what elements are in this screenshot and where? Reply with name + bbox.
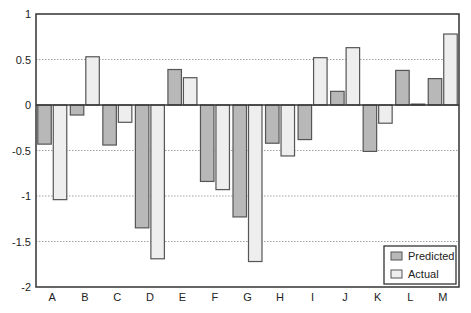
y-tick-label: -0.5 xyxy=(12,145,31,157)
bar-predicted-H xyxy=(266,105,280,143)
bar-predicted-J xyxy=(331,91,345,105)
x-tick-label: M xyxy=(438,291,447,303)
bar-actual-D xyxy=(151,105,165,259)
x-tick-label: A xyxy=(49,291,57,303)
bars xyxy=(38,34,457,262)
y-tick-label: -1 xyxy=(21,190,31,202)
y-tick-label: 0.5 xyxy=(16,54,31,66)
bar-actual-E xyxy=(183,78,197,105)
bar-actual-C xyxy=(118,105,132,122)
bar-predicted-D xyxy=(135,105,149,228)
x-tick-label: K xyxy=(374,291,382,303)
bar-actual-J xyxy=(346,48,360,105)
x-tick-label: G xyxy=(243,291,252,303)
x-tick-label: E xyxy=(179,291,186,303)
x-tick-label: B xyxy=(81,291,88,303)
x-tick-label: L xyxy=(407,291,413,303)
y-tick-label: 1 xyxy=(25,8,31,20)
bar-predicted-L xyxy=(396,70,410,105)
bar-predicted-F xyxy=(200,105,214,181)
bar-predicted-G xyxy=(233,105,247,217)
legend-swatch-actual xyxy=(391,270,402,278)
legend-swatch-predicted xyxy=(391,252,402,260)
bar-actual-F xyxy=(216,105,230,190)
x-tick-label: J xyxy=(342,291,348,303)
bar-predicted-M xyxy=(428,79,442,105)
bar-actual-H xyxy=(281,105,295,156)
bar-predicted-C xyxy=(103,105,117,145)
x-tick-label: I xyxy=(311,291,314,303)
bar-actual-A xyxy=(53,105,66,200)
x-tick-label: C xyxy=(113,291,121,303)
y-tick-label: 0 xyxy=(25,99,31,111)
bar-actual-K xyxy=(379,105,393,123)
x-tick-label: D xyxy=(146,291,154,303)
legend-label-predicted: Predicted xyxy=(408,250,454,262)
y-axis-ticks: 10.50-0.5-1-1.5-2 xyxy=(12,8,31,293)
y-tick-label: -1.5 xyxy=(12,236,31,248)
bar-actual-M xyxy=(444,34,458,105)
bar-actual-B xyxy=(86,57,100,105)
x-axis-labels: ABCDEFGHIJKLM xyxy=(49,291,448,303)
bar-predicted-B xyxy=(70,105,84,115)
y-tick-label: -2 xyxy=(21,281,31,293)
bar-predicted-I xyxy=(298,105,312,140)
bar-actual-I xyxy=(314,58,328,105)
bar-predicted-A xyxy=(38,105,52,144)
bar-actual-G xyxy=(249,105,263,262)
bar-predicted-K xyxy=(363,105,377,151)
bar-predicted-E xyxy=(168,70,182,105)
legend: Predicted Actual xyxy=(384,246,456,284)
x-tick-label: F xyxy=(212,291,219,303)
legend-label-actual: Actual xyxy=(408,268,439,280)
bar-chart: 10.50-0.5-1-1.5-2 ABCDEFGHIJKLM Predicte… xyxy=(0,0,471,313)
x-tick-label: H xyxy=(276,291,284,303)
